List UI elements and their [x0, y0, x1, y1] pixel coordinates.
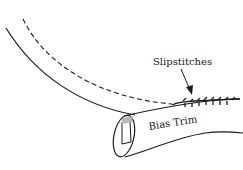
slipstitches-label: Slipstitches	[153, 57, 212, 67]
slipstitches-marks	[172, 97, 240, 107]
bias-trim-top-edge	[124, 99, 240, 116]
seam-dashed-line	[23, 19, 172, 104]
bias-trim-diagram: Slipstitches Bias Trim	[0, 0, 243, 170]
bias-trim-inner-fold	[122, 121, 131, 144]
diagram-illustration	[0, 0, 243, 170]
fabric-edge-line	[6, 28, 135, 115]
bias-trim-bottom-edge	[125, 132, 243, 157]
arrow-head-icon	[186, 85, 193, 95]
